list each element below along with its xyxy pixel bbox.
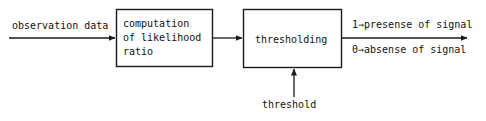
output-absence-label: 0⇒absense of signal: [352, 44, 466, 56]
block-thresholding-label: thresholding: [255, 33, 327, 47]
output-presence-label: 1⇒presense of signal: [352, 19, 472, 31]
block-diagram: observation data computation of likeliho…: [0, 0, 486, 121]
block-likelihood-ratio-label: computation of likelihood ratio: [123, 17, 201, 59]
input-label: observation data: [12, 20, 108, 32]
threshold-label: threshold: [262, 99, 316, 111]
